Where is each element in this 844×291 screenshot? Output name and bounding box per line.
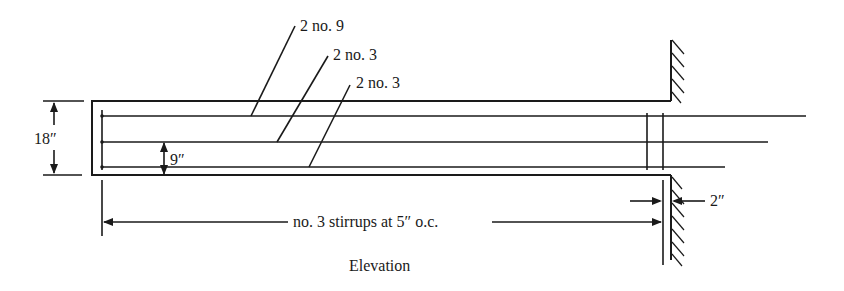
stirrups-label: no. 3 stirrups at 5″ o.c. bbox=[293, 213, 438, 231]
wall-hatching-bottom bbox=[672, 177, 684, 266]
half-depth-dimension bbox=[160, 142, 168, 175]
cover-dimension bbox=[630, 197, 705, 205]
depth-dimension-label: 18″ bbox=[34, 130, 57, 147]
reinforcing-bars bbox=[100, 114, 806, 169]
middle-bars-label: 2 no. 3 bbox=[333, 46, 377, 63]
stirrups bbox=[102, 110, 663, 170]
half-depth-dimension-label: 9″ bbox=[170, 151, 185, 168]
cover-dimension-label: 2″ bbox=[710, 192, 725, 209]
beam-elevation-diagram: 2 no. 9 2 no. 3 2 no. 3 18″ 9″ no. 3 sti… bbox=[0, 0, 844, 291]
bottom-bars-label: 2 no. 3 bbox=[356, 74, 400, 91]
caption: Elevation bbox=[349, 257, 410, 274]
wall-hatching-top bbox=[672, 40, 684, 103]
support-wall bbox=[671, 40, 684, 266]
top-bars-label: 2 no. 9 bbox=[300, 17, 344, 34]
